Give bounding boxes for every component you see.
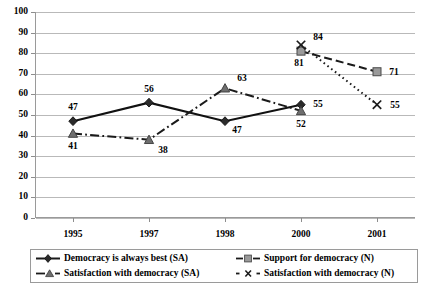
- gridline: [36, 115, 415, 116]
- gridline: [36, 74, 415, 75]
- gridline: [36, 33, 415, 34]
- y-axis-tick-label: 50: [2, 110, 28, 120]
- gridline: [36, 177, 415, 178]
- data-point-label: 47: [68, 103, 78, 113]
- legend-item-democracy-always-best-sa[interactable]: Democracy is always best (SA): [35, 253, 235, 264]
- y-axis-tick-label: 100: [2, 7, 28, 17]
- y-axis-tick-label: 30: [2, 151, 28, 161]
- x-axis-tick-mark: [225, 218, 226, 222]
- data-point-label: 84: [313, 33, 323, 43]
- gridline: [36, 12, 415, 13]
- legend-item-support-for-democracy-n[interactable]: Support for democracy (N): [235, 253, 414, 264]
- data-point-label: 52: [296, 120, 306, 130]
- legend-item-label: Satisfaction with democracy (SA): [64, 269, 199, 279]
- x-axis-tick-label: 2001: [368, 230, 387, 240]
- y-axis-tick-mark: [31, 218, 35, 219]
- x-axis-tick-label: 1998: [216, 230, 235, 240]
- legend-item-label: Support for democracy (N): [264, 254, 374, 264]
- data-point-label: 55: [313, 100, 323, 110]
- x-axis-tick-mark: [149, 218, 150, 222]
- data-point-label: 38: [158, 146, 168, 156]
- x-axis-tick-label: 1997: [140, 230, 159, 240]
- y-axis-tick-label: 20: [2, 172, 28, 182]
- y-axis-tick-label: 40: [2, 131, 28, 141]
- data-point-label: 47: [232, 126, 242, 136]
- x-axis-tick-label: 1995: [64, 230, 83, 240]
- data-point-label: 55: [390, 101, 400, 111]
- line-chart: 0102030405060708090100 19951997199820002…: [0, 0, 423, 290]
- gridline: [36, 94, 415, 95]
- x-axis-tick-mark: [377, 218, 378, 222]
- x-marker-icon: [235, 268, 261, 279]
- gridline: [36, 156, 415, 157]
- triangle-marker-icon: [35, 268, 61, 279]
- data-point-label: 81: [294, 59, 304, 69]
- y-axis-tick-label: 0: [2, 213, 28, 223]
- gridline: [36, 53, 415, 54]
- diamond-marker-icon: [35, 253, 61, 264]
- y-axis-tick-label: 90: [2, 28, 28, 38]
- legend-item-label: Democracy is always best (SA): [64, 254, 188, 264]
- data-point-label: 63: [237, 74, 247, 84]
- legend: Democracy is always best (SA) Support fo…: [30, 249, 418, 283]
- gridline: [36, 197, 415, 198]
- y-axis-tick-label: 80: [2, 48, 28, 58]
- legend-item-satisfaction-with-democracy-n[interactable]: Satisfaction with democracy (N): [235, 268, 414, 279]
- legend-item-satisfaction-with-democracy-sa[interactable]: Satisfaction with democracy (SA): [35, 268, 235, 279]
- x-axis-tick-mark: [301, 218, 302, 222]
- gridline: [36, 136, 415, 137]
- data-point-label: 71: [389, 68, 399, 78]
- data-point-label: 41: [68, 142, 78, 152]
- y-axis-tick-label: 10: [2, 192, 28, 202]
- x-axis-tick-mark: [73, 218, 74, 222]
- x-axis-tick-label: 2000: [292, 230, 311, 240]
- data-point-label: 56: [144, 85, 154, 95]
- plot-area: [35, 12, 415, 218]
- legend-item-label: Satisfaction with democracy (N): [264, 269, 394, 279]
- y-axis-tick-label: 70: [2, 69, 28, 79]
- y-axis-tick-label: 60: [2, 89, 28, 99]
- square-marker-icon: [235, 253, 261, 264]
